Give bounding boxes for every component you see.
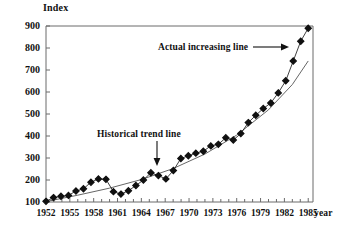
chart-figure: Index year Actual increasing line Histor… [0,0,347,233]
data-point-marker [178,155,184,161]
data-point-marker [95,176,101,182]
y-tick-label: 800 [14,42,40,53]
y-tick-label: 400 [14,130,40,141]
plot-area [0,0,347,233]
data-point-marker [133,182,139,188]
data-point-marker [275,90,281,96]
data-point-marker [298,38,304,44]
data-point-marker [290,58,296,64]
y-tick-label: 600 [14,86,40,97]
axes [46,26,313,202]
actual-line-path [46,28,308,201]
data-point-markers [43,25,311,204]
data-point-marker [110,189,116,195]
tick-marks [46,26,308,202]
data-point-marker [125,188,131,194]
data-point-marker [208,143,214,149]
data-point-marker [185,153,191,159]
data-point-marker [118,191,124,197]
data-point-marker [43,198,49,204]
y-tick-label: 300 [14,152,40,163]
data-point-marker [103,176,109,182]
data-point-marker [193,150,199,156]
y-tick-label: 700 [14,64,40,75]
x-tick-label: 1985 [293,208,323,218]
y-tick-label: 500 [14,108,40,119]
y-tick-label: 100 [14,196,40,207]
trend-line-path [46,61,308,202]
y-tick-label: 200 [14,174,40,185]
data-point-marker [283,78,289,84]
data-point-marker [73,188,79,194]
y-tick-label: 900 [14,20,40,31]
data-point-marker [155,173,161,179]
